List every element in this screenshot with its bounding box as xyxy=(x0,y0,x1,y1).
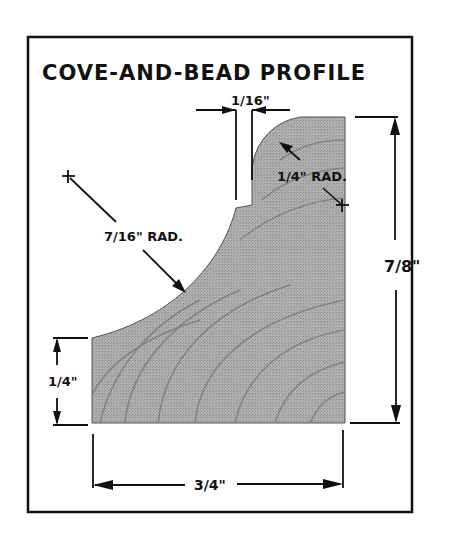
cove-and-bead-diagram: COVE-AND-BEAD PROFILE 1/16" xyxy=(0,0,450,535)
label-top-step: 1/16" xyxy=(231,93,270,108)
label-total-height: 7/8" xyxy=(384,257,420,276)
label-bead-radius: 1/4" RAD. xyxy=(277,169,347,184)
label-total-width: 3/4" xyxy=(194,477,226,493)
wood-profile xyxy=(92,117,345,423)
label-left-edge: 1/4" xyxy=(48,374,78,389)
label-cove-radius: 7/16" RAD. xyxy=(104,229,183,244)
diagram-title: COVE-AND-BEAD PROFILE xyxy=(42,61,366,85)
